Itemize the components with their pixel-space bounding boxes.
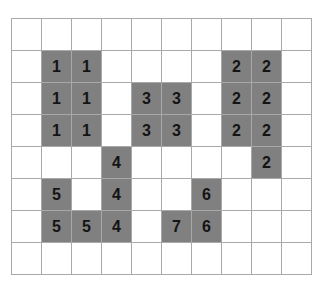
grid-cell-value: 2 <box>262 90 271 106</box>
grid-cell-empty[interactable] <box>12 51 42 83</box>
grid-cell-empty[interactable] <box>222 147 252 179</box>
grid-cell-filled[interactable]: 3 <box>162 83 192 115</box>
grid-cell-empty[interactable] <box>102 51 132 83</box>
grid-cell-empty[interactable] <box>282 211 312 243</box>
grid-cell-empty[interactable] <box>282 243 312 275</box>
grid-cell-empty[interactable] <box>72 19 102 51</box>
grid-cell-empty[interactable] <box>192 243 222 275</box>
grid-cell-value: 3 <box>172 90 181 106</box>
grid-cell-empty[interactable] <box>102 83 132 115</box>
grid-cell-empty[interactable] <box>192 83 222 115</box>
grid-cell-filled[interactable]: 1 <box>72 115 102 147</box>
grid-cell-empty[interactable] <box>42 243 72 275</box>
grid-cell-empty[interactable] <box>12 83 42 115</box>
grid-cell-value: 7 <box>172 218 181 234</box>
grid-cell-filled[interactable]: 2 <box>252 83 282 115</box>
grid-cell-value: 5 <box>82 218 91 234</box>
grid-cell-filled[interactable]: 2 <box>222 51 252 83</box>
grid-cell-value: 2 <box>262 58 271 74</box>
grid-cell-filled[interactable]: 5 <box>72 211 102 243</box>
grid-cell-empty[interactable] <box>222 19 252 51</box>
grid-cell-filled[interactable]: 5 <box>42 179 72 211</box>
grid-cell-empty[interactable] <box>282 147 312 179</box>
grid-cell-empty[interactable] <box>162 243 192 275</box>
grid-cell-empty[interactable] <box>12 115 42 147</box>
grid-cell-empty[interactable] <box>282 179 312 211</box>
grid-cell-empty[interactable] <box>132 51 162 83</box>
grid-cell-empty[interactable] <box>282 83 312 115</box>
grid-cell-empty[interactable] <box>12 179 42 211</box>
grid-cell-filled[interactable]: 1 <box>72 83 102 115</box>
grid-cell-empty[interactable] <box>162 179 192 211</box>
grid-cell-filled[interactable]: 2 <box>252 115 282 147</box>
grid-cell-filled[interactable]: 2 <box>252 51 282 83</box>
grid-cell-empty[interactable] <box>102 115 132 147</box>
grid-cell-value: 5 <box>52 186 61 202</box>
grid-cell-empty[interactable] <box>192 51 222 83</box>
grid-cell-empty[interactable] <box>102 19 132 51</box>
grid-cell-empty[interactable] <box>192 19 222 51</box>
grid-cell-empty[interactable] <box>72 179 102 211</box>
grid-cell-value: 6 <box>202 186 211 202</box>
grid-cell-empty[interactable] <box>222 179 252 211</box>
grid-cell-value: 2 <box>232 90 241 106</box>
grid-cell-empty[interactable] <box>162 19 192 51</box>
grid-cell-empty[interactable] <box>222 211 252 243</box>
grid-cell-filled[interactable]: 2 <box>252 147 282 179</box>
grid-cell-empty[interactable] <box>252 211 282 243</box>
grid-cell-empty[interactable] <box>252 19 282 51</box>
grid-cell-value: 1 <box>52 122 61 138</box>
grid-cell-empty[interactable] <box>132 147 162 179</box>
grid-cell-filled[interactable]: 3 <box>162 115 192 147</box>
grid-cell-filled[interactable]: 4 <box>102 147 132 179</box>
grid-cell-empty[interactable] <box>12 147 42 179</box>
grid-cell-empty[interactable] <box>12 211 42 243</box>
grid-cell-filled[interactable]: 6 <box>192 179 222 211</box>
grid-cell-value: 2 <box>262 154 271 170</box>
grid-cell-empty[interactable] <box>222 243 252 275</box>
grid-cell-empty[interactable] <box>12 19 42 51</box>
grid-cell-empty[interactable] <box>42 19 72 51</box>
grid-cell-filled[interactable]: 1 <box>42 115 72 147</box>
grid-cell-empty[interactable] <box>132 19 162 51</box>
grid-cell-empty[interactable] <box>132 179 162 211</box>
grid-cell-value: 4 <box>112 186 121 202</box>
grid-cell-value: 3 <box>172 122 181 138</box>
grid-cell-empty[interactable] <box>162 147 192 179</box>
grid-cell-value: 3 <box>142 90 151 106</box>
grid-cell-empty[interactable] <box>72 243 102 275</box>
grid-cell-empty[interactable] <box>192 115 222 147</box>
grid-cell-filled[interactable]: 2 <box>222 115 252 147</box>
grid-cell-filled[interactable]: 4 <box>102 211 132 243</box>
grid-cell-filled[interactable]: 1 <box>42 51 72 83</box>
grid-cell-empty[interactable] <box>162 51 192 83</box>
grid-cell-empty[interactable] <box>42 147 72 179</box>
grid-cell-filled[interactable]: 6 <box>192 211 222 243</box>
grid-cell-empty[interactable] <box>132 243 162 275</box>
grid-cell-value: 6 <box>202 218 211 234</box>
grid-cell-filled[interactable]: 3 <box>132 115 162 147</box>
grid-cell-empty[interactable] <box>282 115 312 147</box>
grid-cell-empty[interactable] <box>252 179 282 211</box>
grid-cell-empty[interactable] <box>102 243 132 275</box>
grid-cell-value: 3 <box>142 122 151 138</box>
grid-cell-empty[interactable] <box>252 243 282 275</box>
grid-cell-value: 5 <box>52 218 61 234</box>
grid-cell-value: 1 <box>82 58 91 74</box>
grid-cell-empty[interactable] <box>192 147 222 179</box>
grid-cell-empty[interactable] <box>282 19 312 51</box>
grid-cell-empty[interactable] <box>12 243 42 275</box>
grid-cell-filled[interactable]: 7 <box>162 211 192 243</box>
grid-cell-value: 1 <box>82 90 91 106</box>
grid-cell-value: 2 <box>232 58 241 74</box>
grid-cell-empty[interactable] <box>132 211 162 243</box>
grid-cell-filled[interactable]: 4 <box>102 179 132 211</box>
grid-cell-filled[interactable]: 5 <box>42 211 72 243</box>
grid-cell-value: 2 <box>262 122 271 138</box>
grid-cell-empty[interactable] <box>72 147 102 179</box>
grid-cell-filled[interactable]: 3 <box>132 83 162 115</box>
grid-cell-empty[interactable] <box>282 51 312 83</box>
grid-cell-filled[interactable]: 1 <box>42 83 72 115</box>
grid-cell-filled[interactable]: 1 <box>72 51 102 83</box>
grid-cell-filled[interactable]: 2 <box>222 83 252 115</box>
